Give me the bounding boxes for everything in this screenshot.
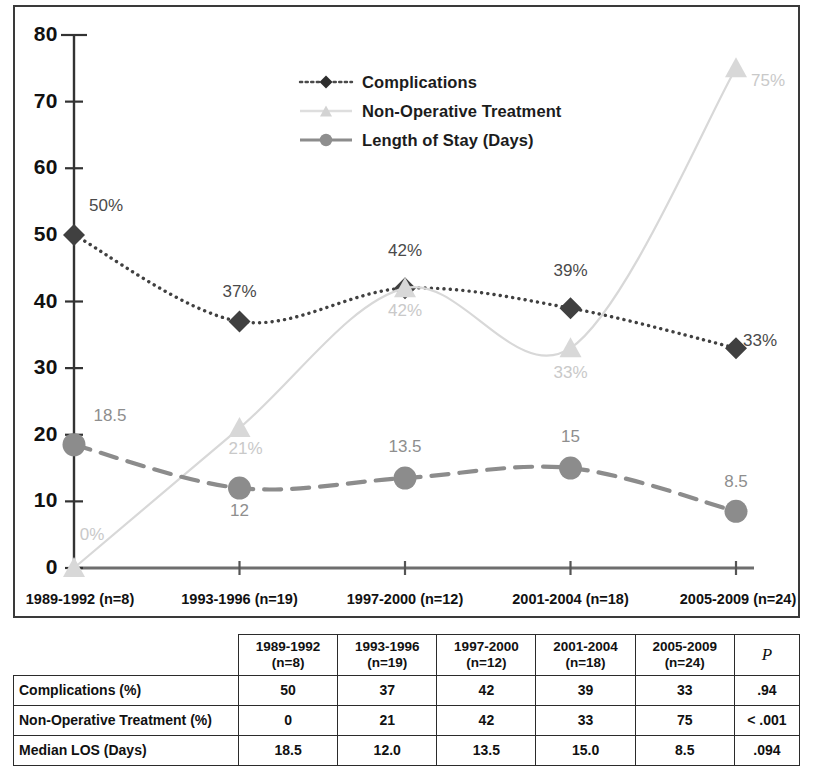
table-col-header-year-0: 1989-1992	[243, 639, 333, 655]
point-label-0-4: 33%	[743, 331, 777, 351]
table-col-header-n-1: (n=19)	[342, 655, 432, 671]
series-0-marker-1	[229, 310, 251, 332]
series-2-marker-4	[725, 500, 748, 523]
y-axis-tick-30: 30	[14, 355, 58, 379]
point-label-0-2: 42%	[388, 241, 422, 261]
table-col-header-n-0: (n=8)	[243, 655, 333, 671]
table-cell-2-3: 15.0	[536, 736, 635, 766]
point-label-0-3: 39%	[553, 261, 587, 281]
legend-key-non-operative-icon	[298, 101, 354, 121]
table-corner-cell	[14, 635, 239, 676]
chart-legend: Complications Non-Operative Treatment Le…	[298, 69, 598, 156]
y-axis-tick-50: 50	[14, 222, 58, 246]
table-cell-p-2: .094	[734, 736, 799, 766]
table-col-header-0: 1989-1992 (n=8)	[239, 635, 338, 676]
point-label-2-1: 12	[230, 501, 249, 521]
point-label-2-2: 13.5	[388, 437, 421, 457]
table-cell-2-1: 12.0	[338, 736, 437, 766]
table-col-header-1: 1993-1996 (n=19)	[338, 635, 437, 676]
table-col-header-year-4: 2005-2009	[640, 639, 730, 655]
table-col-header-n-4: (n=24)	[640, 655, 730, 671]
table-row-label-0: Complications (%)	[14, 676, 239, 706]
table-cell-1-3: 33	[536, 706, 635, 736]
point-label-1-1: 21%	[228, 439, 262, 459]
point-label-1-2: 42%	[388, 301, 422, 321]
table-cell-1-4: 75	[635, 706, 734, 736]
table-row: Median LOS (Days)18.512.013.515.08.5.094	[14, 736, 800, 766]
legend-label-complications: Complications	[354, 73, 477, 92]
legend-label-non-operative: Non-Operative Treatment	[354, 102, 561, 121]
table-col-header-n-2: (n=12)	[441, 655, 531, 671]
y-axis-tick-70: 70	[14, 89, 58, 113]
table-cell-0-4: 33	[635, 676, 734, 706]
point-label-1-3: 33%	[553, 363, 587, 383]
table-row: Non-Operative Treatment (%)021423375< .0…	[14, 706, 800, 736]
x-axis-tick-0: 1989-1992 (n=8)	[26, 591, 134, 607]
point-label-2-3: 15	[561, 427, 580, 447]
table-col-header-year-2: 1997-2000	[441, 639, 531, 655]
y-axis-tick-10: 10	[14, 488, 58, 512]
table-row: Complications (%)5037423933.94	[14, 676, 800, 706]
table-header-row: 1989-1992 (n=8) 1993-1996 (n=19) 1997-20…	[14, 635, 800, 676]
y-axis-tick-0: 0	[14, 555, 58, 579]
table-cell-2-2: 13.5	[437, 736, 536, 766]
table-col-header-year-1: 1993-1996	[342, 639, 432, 655]
series-0-marker-0	[63, 224, 85, 246]
x-axis-tick-3: 2001-2004 (n=18)	[512, 591, 628, 607]
point-label-2-4: 8.5	[724, 472, 748, 492]
chart-panel: 01020304050607080 Complications Non-Oper…	[13, 5, 800, 618]
table-cell-0-1: 37	[338, 676, 437, 706]
table-cell-0-0: 50	[239, 676, 338, 706]
table-cell-0-3: 39	[536, 676, 635, 706]
point-label-0-0: 50%	[89, 196, 123, 216]
table-cell-2-0: 18.5	[239, 736, 338, 766]
table-header: 1989-1992 (n=8) 1993-1996 (n=19) 1997-20…	[14, 635, 800, 676]
series-2-marker-2	[394, 467, 417, 490]
y-axis-tick-60: 60	[14, 155, 58, 179]
legend-key-length-of-stay-icon	[298, 130, 354, 150]
x-axis-tick-2: 1997-2000 (n=12)	[347, 591, 463, 607]
table-cell-1-1: 21	[338, 706, 437, 736]
summary-data-table: 1989-1992 (n=8) 1993-1996 (n=19) 1997-20…	[13, 634, 800, 766]
point-label-1-4: 75%	[751, 71, 785, 91]
series-2-marker-1	[228, 477, 251, 500]
series-1-marker-4	[725, 57, 747, 77]
legend-key-complications-icon	[298, 72, 354, 92]
point-label-2-0: 18.5	[93, 406, 126, 426]
table-col-header-year-3: 2001-2004	[540, 639, 630, 655]
series-2-marker-0	[63, 433, 86, 456]
series-1-marker-3	[560, 337, 582, 357]
legend-item-complications: Complications	[298, 69, 598, 95]
point-label-0-1: 37%	[222, 282, 256, 302]
table-row-label-2: Median LOS (Days)	[14, 736, 239, 766]
table-row-label-1: Non-Operative Treatment (%)	[14, 706, 239, 736]
point-label-1-0: 0%	[80, 525, 105, 545]
table-col-header-4: 2005-2009 (n=24)	[635, 635, 734, 676]
table-body: Complications (%)5037423933.94Non-Operat…	[14, 676, 800, 766]
table-cell-2-4: 8.5	[635, 736, 734, 766]
table-cell-1-2: 42	[437, 706, 536, 736]
table-col-header-2: 1997-2000 (n=12)	[437, 635, 536, 676]
table-cell-1-0: 0	[239, 706, 338, 736]
legend-item-length-of-stay: Length of Stay (Days)	[298, 127, 598, 153]
table-cell-p-1: < .001	[734, 706, 799, 736]
x-axis-tick-labels: 1989-1992 (n=8)1993-1996 (n=19)1997-2000…	[15, 591, 802, 615]
legend-label-length-of-stay: Length of Stay (Days)	[354, 131, 534, 150]
series-0-marker-3	[560, 297, 582, 319]
legend-item-non-operative-treatment: Non-Operative Treatment	[298, 98, 598, 124]
table-col-header-n-3: (n=18)	[540, 655, 630, 671]
x-axis-tick-4: 2005-2009 (n=24)	[680, 591, 796, 607]
table-col-header-3: 2001-2004 (n=18)	[536, 635, 635, 676]
table-cell-0-2: 42	[437, 676, 536, 706]
y-axis-tick-20: 20	[14, 422, 58, 446]
y-axis-tick-80: 80	[14, 22, 58, 46]
table-col-header-p: P	[734, 635, 799, 676]
table-cell-p-0: .94	[734, 676, 799, 706]
series-2-marker-3	[559, 457, 582, 480]
x-axis-tick-1: 1993-1996 (n=19)	[181, 591, 297, 607]
y-axis-tick-40: 40	[14, 289, 58, 313]
